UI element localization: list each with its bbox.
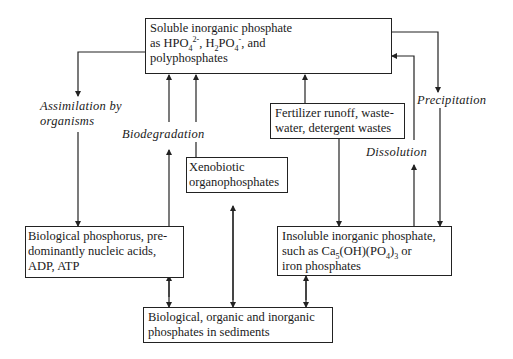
soluble-line1: Soluble inorganic phosphate — [150, 21, 387, 36]
soluble-line3: polyphosphates — [150, 51, 387, 66]
dissolution-label: Dissolution — [366, 145, 427, 160]
precipitation-arrow — [392, 32, 438, 92]
assimilation-arrow — [78, 52, 145, 96]
precipitation-label: Precipitation — [417, 93, 486, 108]
assimilation-label: Assimilation by organisms — [40, 99, 122, 129]
xenobiotic-node: Xenobiotic organophosphates — [186, 157, 288, 193]
sediments-node: Biological, organic and inorganic phosph… — [143, 307, 333, 343]
soluble-line2: as HPO42-, H2PO4-, and — [150, 36, 387, 51]
soluble-phosphate-node: Soluble inorganic phosphate as HPO42-, H… — [145, 18, 392, 74]
biological-phosphorus-node: Biological phosphorus, pre- dominantly n… — [25, 226, 184, 278]
insoluble-phosphate-node: Insoluble inorganic phosphate, such as C… — [277, 226, 452, 276]
biodegradation-label: Biodegradation — [122, 127, 205, 142]
fertilizer-node: Fertilizer runoff, waste- water, deterge… — [270, 103, 405, 139]
